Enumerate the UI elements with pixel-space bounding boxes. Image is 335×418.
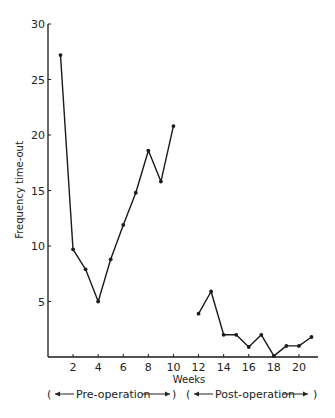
data-point xyxy=(222,333,226,337)
line-chart: 51015202530 2468101214161820 Frequency t… xyxy=(0,0,335,418)
axes xyxy=(48,24,318,357)
data-point xyxy=(209,290,213,294)
data-point xyxy=(59,53,63,57)
post-operation-annotation: ( Post-operation ) xyxy=(186,388,317,401)
data-point xyxy=(272,354,276,358)
y-tick-label: 20 xyxy=(31,129,45,142)
data-point xyxy=(297,344,301,348)
data-point xyxy=(71,247,75,251)
y-tick-label: 10 xyxy=(31,240,45,253)
svg-text:): ) xyxy=(172,388,176,401)
series-line xyxy=(61,55,174,301)
series-line xyxy=(199,292,312,356)
data-point xyxy=(285,344,289,348)
data-point xyxy=(96,300,100,304)
data-point xyxy=(172,124,176,128)
x-tick-label: 4 xyxy=(95,361,102,374)
arrow-right-icon xyxy=(165,392,170,397)
data-point xyxy=(84,267,88,271)
data-point xyxy=(109,257,113,261)
y-tick-label: 5 xyxy=(38,296,45,309)
arrow-left-icon xyxy=(55,392,60,397)
series-post-operation xyxy=(197,290,314,358)
data-point xyxy=(134,191,138,195)
x-axis-title: Weeks xyxy=(173,374,206,385)
x-tick-label: 2 xyxy=(70,361,77,374)
x-tick-label: 20 xyxy=(292,361,306,374)
x-tick-label: 18 xyxy=(267,361,281,374)
data-point xyxy=(197,312,201,316)
pre-operation-annotation: ( Pre-operation ) xyxy=(47,388,176,401)
pre-operation-label: Pre-operation xyxy=(76,388,151,401)
arrow-right-icon xyxy=(303,392,308,397)
data-point xyxy=(146,149,150,153)
x-tick-label: 6 xyxy=(120,361,127,374)
x-tick-label: 12 xyxy=(192,361,206,374)
y-axis-title: Frequency time-out xyxy=(14,141,25,239)
series-pre-operation xyxy=(59,53,176,303)
svg-text:(: ( xyxy=(47,388,51,401)
y-tick-label: 15 xyxy=(31,185,45,198)
arrow-left-icon xyxy=(194,392,199,397)
data-point xyxy=(234,333,238,337)
svg-text:): ) xyxy=(313,388,317,401)
x-tick-label: 16 xyxy=(242,361,256,374)
x-tick-label: 10 xyxy=(166,361,180,374)
y-tick-label: 25 xyxy=(31,74,45,87)
x-tick-label: 8 xyxy=(145,361,152,374)
data-point xyxy=(259,333,263,337)
y-tick-label: 30 xyxy=(31,18,45,31)
data-series xyxy=(59,53,314,358)
data-point xyxy=(121,223,125,227)
data-point xyxy=(159,180,163,184)
data-point xyxy=(310,335,314,339)
x-tick-label: 14 xyxy=(217,361,231,374)
data-point xyxy=(247,345,251,349)
period-annotations: ( Pre-operation ) ( Post-operation ) xyxy=(47,388,317,401)
svg-text:(: ( xyxy=(186,388,190,401)
